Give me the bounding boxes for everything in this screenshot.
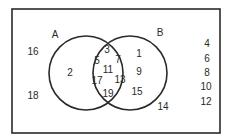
element-b-only-15: 15 [131, 87, 142, 97]
element-a-and-b-5: 5 [94, 56, 100, 66]
element-outside-8: 8 [204, 68, 210, 78]
element-b-only-9: 9 [136, 67, 142, 77]
element-a-and-b-13: 13 [114, 75, 125, 85]
element-a-and-b-7: 7 [115, 55, 121, 65]
element-outside-4: 4 [204, 39, 210, 49]
element-a-and-b-3: 3 [104, 45, 110, 55]
element-a-and-b-11: 11 [103, 65, 113, 75]
element-a-and-b-19: 19 [102, 89, 113, 99]
element-outside-12: 12 [200, 97, 211, 107]
element-a-and-b-17: 17 [91, 76, 102, 86]
element-outside-14: 14 [157, 102, 168, 112]
element-outside-10: 10 [200, 82, 211, 92]
element-outside-18: 18 [27, 91, 38, 101]
element-a-only-2: 2 [67, 68, 73, 78]
universe-box [12, 9, 220, 133]
element-outside-6: 6 [204, 54, 210, 64]
element-b-only-1: 1 [136, 49, 142, 59]
set-b-label: B [157, 28, 164, 38]
element-outside-16: 16 [27, 47, 38, 57]
venn-diagram [0, 0, 228, 139]
set-a-label: A [52, 30, 59, 40]
